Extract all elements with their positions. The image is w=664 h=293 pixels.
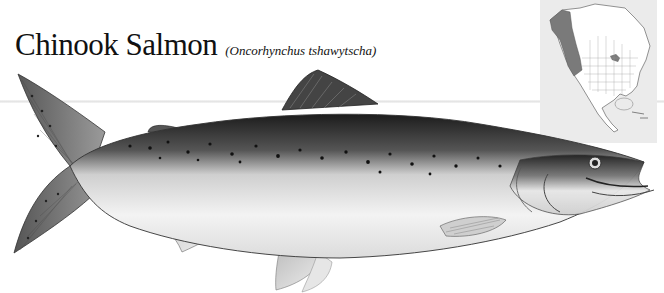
page-title: Chinook Salmon (Oncorhynchus tshawytscha… [15,27,376,63]
common-name: Chinook Salmon [15,27,217,62]
dorsal-fin [282,70,378,110]
scientific-name: (Oncorhynchus tshawytscha) [225,43,376,58]
salmon-illustration [0,66,664,293]
salmon-head [510,155,650,215]
